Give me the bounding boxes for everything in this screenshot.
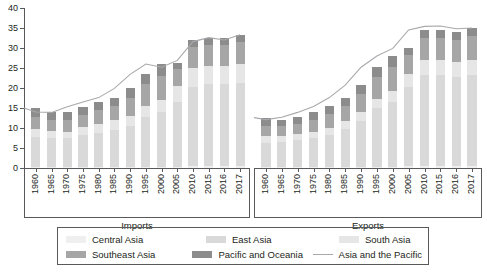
panel-label-box-exports <box>254 168 482 218</box>
x-tick-label: 1985 <box>109 174 118 194</box>
x-tick-label: 2005 <box>404 174 413 194</box>
y-tick-label: 35 <box>8 24 18 33</box>
y-tick-label: 20 <box>8 84 18 93</box>
legend-swatch-east-asia <box>206 236 226 243</box>
legend-label-south-asia: South Asia <box>365 235 410 245</box>
legend-label-east-asia: East Asia <box>232 235 272 245</box>
legend-swatch-southeast-asia <box>66 251 86 258</box>
y-tick-label: 0 <box>13 164 18 173</box>
x-tick-label: 1970 <box>293 174 302 194</box>
line-series-exports <box>254 8 482 168</box>
x-tick-label: 1970 <box>62 174 71 194</box>
legend-label-central-asia: Central Asia <box>92 235 143 245</box>
y-tick-label: 10 <box>8 124 18 133</box>
panel-exports: 1960196519701975198019851990199520002005… <box>254 8 482 204</box>
legend-label-pacific-and-oceania: Pacific and Oceania <box>218 250 303 260</box>
x-tick-label: 1995 <box>372 174 381 194</box>
figure: 0510152025303540 19601965197019751980198… <box>0 0 487 279</box>
legend-label-southeast-asia: Southeast Asia <box>92 250 155 260</box>
x-tick-label: 1965 <box>47 174 56 194</box>
x-tick-label: 2010 <box>188 174 197 194</box>
x-tick-label: 1975 <box>309 174 318 194</box>
legend-row-1: Central Asia East Asia South Asia <box>66 232 422 247</box>
y-tick-label: 15 <box>8 104 18 113</box>
panel-label-box-imports <box>24 168 250 218</box>
legend-item-southeast-asia: Southeast Asia <box>66 250 192 260</box>
x-tick-label: 1985 <box>340 174 349 194</box>
x-tick-label: 1995 <box>141 174 150 194</box>
legend-item-east-asia: East Asia <box>206 235 339 245</box>
legend-row-2: Southeast Asia Pacific and Oceania Asia … <box>66 247 422 262</box>
chart-legend: Central Asia East Asia South Asia Southe… <box>57 227 429 265</box>
y-tick-label: 30 <box>8 44 18 53</box>
trend-line <box>254 26 472 120</box>
x-tick-label: 1965 <box>277 174 286 194</box>
legend-swatch-south-asia <box>339 236 359 243</box>
legend-label-asia-and-the-pacific: Asia and the Pacific <box>339 250 422 260</box>
y-tick-label: 40 <box>8 4 18 13</box>
legend-swatch-central-asia <box>66 236 86 243</box>
trend-line <box>24 35 240 113</box>
plot-area-exports <box>254 8 482 168</box>
plot-area-imports: 0510152025303540 <box>24 8 250 168</box>
x-tick-label: 2005 <box>172 174 181 194</box>
x-tick-label: 1980 <box>94 174 103 194</box>
x-tick-label: 2000 <box>157 174 166 194</box>
x-tick-label: 1990 <box>356 174 365 194</box>
legend-item-south-asia: South Asia <box>339 235 410 245</box>
y-tick-label: 5 <box>13 144 18 153</box>
x-tick-label: 2000 <box>388 174 397 194</box>
x-tick-label: 2015 <box>435 174 444 194</box>
legend-item-pacific-and-oceania: Pacific and Oceania <box>192 250 312 260</box>
x-tick-label: 1990 <box>125 174 134 194</box>
legend-item-asia-and-the-pacific: Asia and the Pacific <box>313 250 422 260</box>
line-series-imports <box>24 8 250 168</box>
y-tick-label: 25 <box>8 64 18 73</box>
x-tick-label: 1975 <box>78 174 87 194</box>
x-tick-label: 2016 <box>451 174 460 194</box>
legend-line-asia-and-the-pacific <box>313 254 333 255</box>
x-tick-label: 2016 <box>219 174 228 194</box>
panel-imports: 0510152025303540 19601965197019751980198… <box>24 8 250 204</box>
x-tick-label: 1960 <box>31 174 40 194</box>
x-tick-label: 2015 <box>204 174 213 194</box>
x-tick-label: 2017 <box>467 174 476 194</box>
x-tick-label: 2017 <box>235 174 244 194</box>
legend-swatch-pacific-and-oceania <box>192 251 212 258</box>
chart-panels: 0510152025303540 19601965197019751980198… <box>0 8 487 204</box>
x-tick-label: 1960 <box>261 174 270 194</box>
x-tick-label: 2010 <box>420 174 429 194</box>
x-tick-label: 1980 <box>324 174 333 194</box>
legend-item-central-asia: Central Asia <box>66 235 206 245</box>
